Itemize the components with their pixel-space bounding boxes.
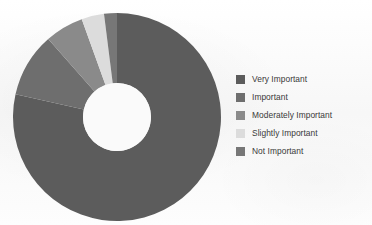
legend-swatch-slightly-important [236,129,245,138]
legend-item-very-important[interactable]: Very Important [236,70,372,88]
legend-item-slightly-important[interactable]: Slightly Important [236,124,372,142]
legend-swatch-very-important [236,75,245,84]
legend-label-moderately-important: Moderately Important [252,111,332,119]
legend-swatch-important [236,93,245,102]
chart-legend: Very Important Important Moderately Impo… [236,70,372,160]
legend-label-very-important: Very Important [252,75,307,83]
donut-center-hole [83,83,151,151]
donut-chart [7,8,229,225]
legend-label-important: Important [252,93,288,101]
legend-item-important[interactable]: Important [236,88,372,106]
legend-label-not-important: Not Important [252,147,303,155]
legend-item-not-important[interactable]: Not Important [236,142,372,160]
legend-label-slightly-important: Slightly Important [252,129,318,137]
legend-swatch-moderately-important [236,111,245,120]
legend-item-moderately-important[interactable]: Moderately Important [236,106,372,124]
legend-swatch-not-important [236,147,245,156]
donut-chart-area [0,0,236,225]
